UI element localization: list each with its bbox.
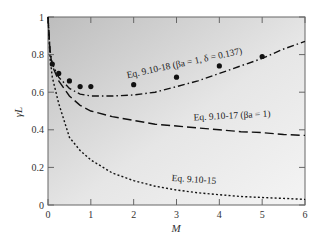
y-tick-label: 0.8: [32, 49, 45, 60]
x-tick-label: 2: [131, 209, 136, 220]
data-point: [50, 61, 55, 66]
y-tick-label: 0.4: [32, 124, 45, 135]
y-tick-label: 0: [39, 200, 44, 211]
data-point: [56, 71, 61, 76]
y-tick-label: 1: [39, 12, 44, 23]
x-axis-title: M: [170, 222, 181, 234]
data-point: [67, 78, 72, 83]
y-axis-title: γL: [12, 107, 24, 117]
data-point: [131, 82, 136, 87]
x-tick-label: 0: [46, 209, 51, 220]
y-tick-label: 0.2: [32, 162, 45, 173]
x-tick-label: 6: [303, 209, 308, 220]
data-point: [217, 63, 222, 68]
data-point: [260, 54, 265, 59]
x-tick-label: 1: [88, 209, 93, 220]
data-point: [174, 75, 179, 80]
chart: 012345600.20.40.60.81 Eq. 9.10-18 (βa = …: [0, 0, 323, 243]
x-tick-label: 3: [174, 209, 179, 220]
x-tick-label: 5: [260, 209, 265, 220]
x-tick-label: 4: [217, 209, 222, 220]
data-point: [88, 84, 93, 89]
y-tick-label: 0.6: [32, 87, 45, 98]
data-point: [78, 84, 83, 89]
